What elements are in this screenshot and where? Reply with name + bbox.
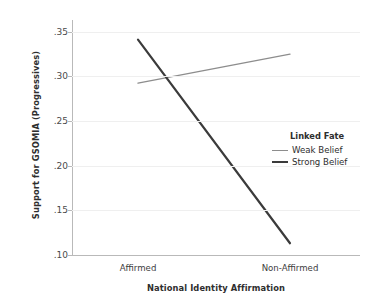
line-strong-belief xyxy=(138,40,290,244)
legend-swatch-weak-belief xyxy=(272,150,288,151)
gridline-030 xyxy=(72,76,360,77)
x-tick-label-affirmed: Affirmed xyxy=(98,261,178,275)
gridline-025 xyxy=(72,121,360,122)
legend-swatch-strong-belief xyxy=(272,161,288,163)
y-tick-label-025: .25 xyxy=(8,115,68,127)
gridline-015 xyxy=(72,210,360,211)
y-tick-label-010: .10 xyxy=(8,249,68,261)
legend-label-strong-belief: Strong Belief xyxy=(292,157,347,167)
gridline-035 xyxy=(72,32,360,33)
chart-figure: Support for GSOMIA (Progressives) .35 .3… xyxy=(0,0,392,304)
y-axis-title: Support for GSOMIA (Progressives) xyxy=(26,5,46,265)
legend-title: Linked Fate xyxy=(290,131,390,141)
legend-item-strong-belief: Strong Belief xyxy=(272,156,390,168)
legend-label-weak-belief: Weak Belief xyxy=(292,145,343,155)
x-axis-spine xyxy=(72,255,360,256)
y-tick-label-030: .30 xyxy=(8,70,68,82)
x-axis-title: National Identity Affirmation xyxy=(72,283,360,293)
y-tick-label-035: .35 xyxy=(8,26,68,38)
legend-item-weak-belief: Weak Belief xyxy=(272,144,390,156)
y-tick-label-020: .20 xyxy=(8,160,68,172)
x-tick-label-non-affirmed: Non-Affirmed xyxy=(250,261,330,275)
chart-legend: Linked Fate Weak Belief Strong Belief xyxy=(272,131,390,168)
y-tick-label-015: .15 xyxy=(8,204,68,216)
